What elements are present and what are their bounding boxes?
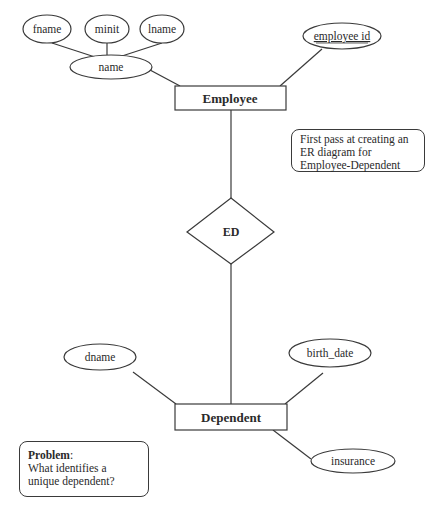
edge-birthdate-dependent — [285, 373, 323, 404]
entity-employee: Employee — [175, 86, 286, 110]
note-first-pass: First pass at creating an ER diagram for… — [291, 129, 425, 172]
attribute-lname-label: lname — [148, 23, 176, 35]
edge-lname-name — [122, 43, 162, 56]
attribute-birth-date: birth_date — [289, 339, 371, 367]
attribute-name-label: name — [99, 61, 124, 73]
attribute-birth-date-label: birth_date — [307, 347, 354, 359]
note-problem-colon: : — [70, 449, 73, 461]
edge-insurance-dependent — [273, 430, 311, 459]
attribute-fname-label: fname — [33, 23, 62, 35]
relationship-ed: ED — [187, 198, 274, 264]
attribute-fname: fname — [23, 15, 71, 43]
entity-employee-label: Employee — [203, 91, 258, 106]
er-diagram: fname minit lname name employee id dname… — [0, 0, 441, 515]
attribute-dname-label: dname — [85, 351, 116, 363]
attribute-minit: minit — [85, 15, 129, 43]
edge-dname-dependent — [133, 372, 176, 404]
attribute-insurance-label: insurance — [331, 455, 375, 467]
attribute-dname: dname — [64, 344, 136, 370]
attribute-name: name — [70, 55, 152, 79]
attribute-employee-id: employee id — [303, 23, 381, 49]
attribute-lname: lname — [140, 15, 184, 43]
relationship-ed-label: ED — [223, 225, 240, 239]
edge-fname-name — [52, 43, 95, 57]
attribute-employee-id-label: employee id — [314, 30, 371, 43]
edge-name-employee — [150, 70, 180, 86]
entity-dependent-label: Dependent — [201, 410, 262, 425]
attribute-minit-label: minit — [95, 23, 120, 35]
note-first-pass-text: First pass at creating an ER diagram for… — [300, 133, 409, 171]
note-problem-text: What identifies a unique dependent? — [28, 462, 140, 488]
note-problem: Problem: What identifies a unique depend… — [19, 441, 149, 497]
entity-dependent: Dependent — [175, 404, 287, 430]
note-problem-title: Problem — [28, 449, 70, 461]
edge-employeeid-employee — [280, 49, 322, 86]
attribute-insurance: insurance — [311, 449, 395, 473]
